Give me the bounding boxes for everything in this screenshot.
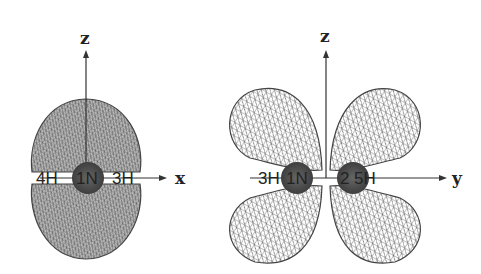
- orbital-diagram: z x 4H 1N 3H z y 3H 1N 2 5H: [0, 0, 481, 274]
- z-arrow-icon: [83, 50, 89, 58]
- atom-3H-left: 3H: [112, 169, 134, 188]
- atom-3H-right: 3H: [258, 169, 280, 188]
- atom-1N-left: 1N: [76, 169, 98, 188]
- atom-4H: 4H: [36, 169, 58, 188]
- lobe-upper-left: [230, 88, 322, 170]
- left-z-label: z: [80, 28, 90, 48]
- left-panel: z x 4H 1N 3H: [31, 28, 186, 259]
- x-arrow-icon: [159, 175, 167, 181]
- right-panel: z y 3H 1N 2 5H: [230, 26, 463, 263]
- lobe-lower-left: [230, 186, 322, 263]
- z-arrow-icon: [323, 50, 329, 58]
- lobe-lower-right: [330, 186, 420, 263]
- y-arrow-icon: [439, 175, 447, 181]
- atom-1N-right: 1N: [286, 169, 308, 188]
- atom-2: 2: [340, 169, 349, 188]
- atom-5H: 5H: [354, 169, 376, 188]
- right-z-label: z: [320, 26, 330, 46]
- x-label: x: [175, 168, 186, 188]
- lobe-upper-right: [330, 89, 420, 171]
- left-lower-lobe: [31, 184, 140, 259]
- y-label: y: [451, 168, 463, 188]
